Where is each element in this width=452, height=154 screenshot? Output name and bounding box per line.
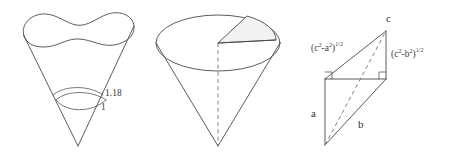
expr-right-power: 1/2 [416, 46, 424, 53]
side-label-a: a [311, 107, 316, 119]
expression-upper-left: (c2-a2)1/2 [311, 40, 343, 54]
cone-right-side [78, 26, 134, 146]
side-label-b: b [358, 118, 364, 130]
expression-upper-right: (c2-b2)1/2 [391, 46, 424, 60]
svg-text:(c2-b2)1/2: (c2-b2)1/2 [391, 46, 424, 60]
band-inner-arc [56, 93, 106, 101]
band-inner-label: 1 [101, 102, 106, 112]
expr-left-open: (c [311, 43, 318, 54]
figure-board: 1.18 1 [0, 0, 452, 154]
wavy-rim-curve [23, 13, 134, 47]
triangle-construction-group: c a b (c2-a2)1/2 (c2-b2)1/2 [311, 12, 424, 145]
band-outer-label: 1.18 [105, 88, 122, 98]
apex-label-c: c [386, 12, 391, 24]
sector-cone-group [156, 15, 280, 146]
wavy-cone-group: 1.18 1 [23, 13, 134, 146]
sector-cone-left-side [156, 43, 218, 146]
sector-cone-right-side [218, 43, 280, 146]
expr-right-open: (c [391, 49, 398, 60]
right-angle-marker-right [379, 72, 386, 79]
svg-text:(c2-a2)1/2: (c2-a2)1/2 [311, 40, 343, 54]
edge-base-diagonal-b [325, 79, 386, 145]
edge-upper-left [325, 31, 386, 79]
cone-left-side [24, 36, 78, 146]
band-outer-arc [53, 88, 103, 96]
sector-wedge-face [218, 16, 276, 43]
expr-left-power: 1/2 [335, 40, 343, 47]
